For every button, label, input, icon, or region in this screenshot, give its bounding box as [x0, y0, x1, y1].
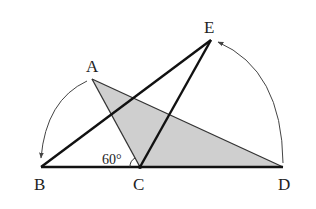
- geometry-diagram: A B C D E 60°: [0, 0, 316, 209]
- label-d: D: [278, 175, 290, 194]
- point-c-dot: [138, 165, 142, 169]
- label-a: A: [86, 57, 99, 76]
- angle-mark-60: [130, 158, 135, 167]
- label-c: C: [133, 175, 144, 194]
- angle-label: 60°: [102, 152, 122, 167]
- rotation-arc-a-to-b: [41, 81, 87, 158]
- label-b: B: [34, 175, 45, 194]
- label-e: E: [204, 18, 214, 37]
